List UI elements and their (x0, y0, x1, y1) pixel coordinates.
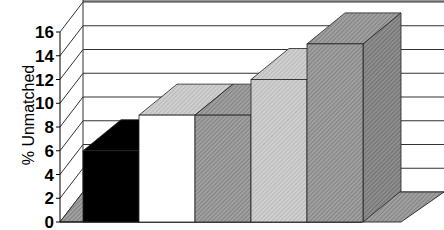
bar-front (307, 44, 363, 222)
y-tick-label: 6 (45, 142, 54, 161)
bar-front (139, 115, 195, 222)
y-axis-label: % Unmatched (20, 55, 38, 175)
gridline-side (60, 121, 83, 151)
gridline-side (60, 73, 83, 103)
gridline-side (60, 168, 83, 198)
3d-bar-chart: 0246810121416 % Unmatched (0, 0, 444, 230)
y-tick-label: 8 (45, 118, 54, 137)
gridline-side (60, 2, 83, 32)
y-tick-label: 4 (45, 166, 55, 185)
bars (83, 13, 401, 222)
gridline-side (60, 50, 83, 80)
y-tick-label: 2 (45, 189, 54, 208)
bar (307, 13, 401, 222)
y-tick-label: 0 (45, 213, 54, 230)
bar-front (251, 80, 307, 223)
gridline-side (60, 97, 83, 127)
bar-front (83, 151, 139, 222)
chart-canvas: 0246810121416 (0, 0, 444, 230)
gridline-side (60, 145, 83, 175)
gridline-side (60, 26, 83, 56)
bar-side (363, 13, 401, 222)
y-tick-label: 16 (35, 23, 54, 42)
bar-front (195, 115, 251, 222)
